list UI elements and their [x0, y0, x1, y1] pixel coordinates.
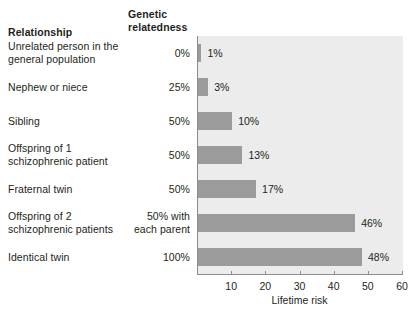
bar: [198, 78, 208, 96]
column-header-relationship: Relationship: [8, 26, 72, 38]
x-axis-tick: [402, 271, 403, 275]
x-axis-tick-label: 40: [328, 280, 340, 292]
bar-value-label: 3%: [214, 81, 229, 93]
relatedness-line: 50%: [169, 149, 190, 161]
bar: [198, 44, 201, 62]
relatedness-line: 50%: [169, 183, 190, 195]
x-axis-tick: [334, 271, 335, 275]
relationship-label-line: Nephew or niece: [8, 81, 88, 93]
x-axis-tick-label: 50: [362, 280, 374, 292]
relatedness-line: 0%: [175, 47, 190, 59]
genetic-relatedness-value: 50%: [110, 183, 190, 196]
genetic-relatedness-value: 100%: [110, 251, 190, 264]
column-header-genetic-relatedness: Genetic relatedness: [128, 8, 190, 34]
x-axis-title: Lifetime risk: [197, 294, 402, 306]
bar-value-label: 17%: [262, 183, 283, 195]
relationship-label-line: Unrelated person in the: [8, 40, 118, 52]
relationship-label-line: Sibling: [8, 115, 40, 127]
bar: [198, 146, 242, 164]
chart-figure: Relationship Genetic relatedness Unrelat…: [0, 0, 416, 310]
relationship-label-line: Offspring of 1: [8, 142, 72, 154]
relationship-label-line: schizophrenic patients: [8, 223, 113, 235]
bar-value-label: 10%: [238, 115, 259, 127]
x-axis-tick-label: 30: [294, 280, 306, 292]
plot-area: 1%3%10%13%17%46%48%: [197, 36, 403, 274]
genetic-relatedness-value: 0%: [110, 47, 190, 60]
bar-value-label: 48%: [368, 251, 389, 263]
relationship-label-line: general population: [8, 53, 95, 65]
x-axis-tick-label: 20: [259, 280, 271, 292]
x-axis-tick: [265, 271, 266, 275]
genetic-relatedness-value: 50%: [110, 115, 190, 128]
x-axis-tick: [231, 271, 232, 275]
bar: [198, 214, 355, 232]
x-axis-tick-label: 10: [225, 280, 237, 292]
x-axis-tick-label: 60: [396, 280, 408, 292]
relatedness-line: each parent: [134, 223, 190, 235]
bar: [198, 180, 256, 198]
relatedness-line: 25%: [169, 81, 190, 93]
bar-value-label: 46%: [361, 217, 382, 229]
relationship-label-line: Identical twin: [8, 251, 69, 263]
genetic-relatedness-value: 25%: [110, 81, 190, 94]
genetic-relatedness-value: 50%: [110, 149, 190, 162]
genetic-relatedness-value: 50% witheach parent: [110, 210, 190, 236]
bar-value-label: 1%: [207, 47, 222, 59]
relatedness-line: 100%: [163, 251, 190, 263]
bar: [198, 112, 232, 130]
bar: [198, 248, 362, 266]
relationship-label-line: Fraternal twin: [8, 183, 72, 195]
x-axis-tick: [300, 271, 301, 275]
relatedness-line: 50%: [169, 115, 190, 127]
relatedness-line: 50% with: [147, 210, 190, 222]
relationship-label-line: Offspring of 2: [8, 210, 72, 222]
x-axis-tick: [368, 271, 369, 275]
bar-value-label: 13%: [248, 149, 269, 161]
relationship-label-line: schizophrenic patient: [8, 155, 108, 167]
